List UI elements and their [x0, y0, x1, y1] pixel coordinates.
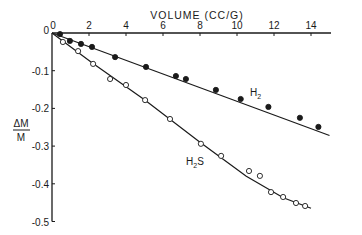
y-tick-label: -0.3	[32, 141, 50, 152]
y-axis-label-numerator: ΔM	[13, 118, 28, 129]
data-points	[57, 31, 321, 208]
y-tick-label: 0	[43, 25, 49, 36]
data-point-h2	[67, 38, 72, 43]
x-tick-label: 14	[305, 20, 317, 31]
data-point-h2	[266, 104, 271, 109]
data-point-h2s	[293, 200, 298, 205]
fit-line-h2s	[52, 33, 311, 208]
data-point-h2	[183, 76, 188, 81]
data-point-h2s	[60, 39, 65, 44]
data-point-h2	[297, 115, 302, 120]
data-point-h2s	[198, 141, 203, 146]
data-point-h2	[113, 55, 118, 60]
data-point-h2	[213, 87, 218, 92]
data-point-h2s	[219, 153, 224, 158]
x-tick-label: 10	[231, 20, 243, 31]
data-point-h2s	[257, 173, 262, 178]
data-point-h2	[238, 96, 243, 101]
data-point-h2	[89, 44, 94, 49]
data-point-h2	[143, 64, 148, 69]
fit-lines	[52, 33, 330, 208]
y-tick-label: -0.4	[32, 179, 50, 190]
data-point-h2s	[143, 98, 148, 103]
x-tick-label: 2	[86, 20, 92, 31]
x-tick-label: 4	[123, 20, 129, 31]
data-point-h2	[57, 31, 62, 36]
data-point-h2s	[167, 116, 172, 121]
data-point-h2s	[76, 49, 81, 54]
data-point-h2s	[268, 190, 273, 195]
series-label-h2: H2	[250, 87, 261, 100]
data-point-h2s	[281, 194, 286, 199]
data-point-h2	[316, 124, 321, 129]
data-point-h2s	[123, 82, 128, 87]
y-axis-label-denominator: M	[17, 132, 25, 143]
series-label-h2s: H2S	[186, 156, 204, 169]
x-tick-label: 8	[197, 20, 203, 31]
data-point-h2s	[108, 76, 113, 81]
y-axis-label: ΔM M	[13, 118, 30, 143]
x-tick-label: 0	[50, 20, 56, 31]
data-point-h2s	[246, 168, 251, 173]
data-point-h2	[173, 73, 178, 78]
data-point-h2s	[91, 61, 96, 66]
y-tick-label: -0.1	[32, 66, 50, 77]
x-tick-label: 6	[160, 20, 166, 31]
x-tick-label: 12	[268, 20, 280, 31]
chart: VOLUME (CC/G) 024681012140-0.1-0.2-0.3-0…	[0, 0, 362, 235]
y-tick-label: -0.5	[32, 217, 50, 228]
data-point-h2s	[303, 203, 308, 208]
y-tick-label: -0.2	[32, 103, 50, 114]
data-point-h2	[78, 41, 83, 46]
